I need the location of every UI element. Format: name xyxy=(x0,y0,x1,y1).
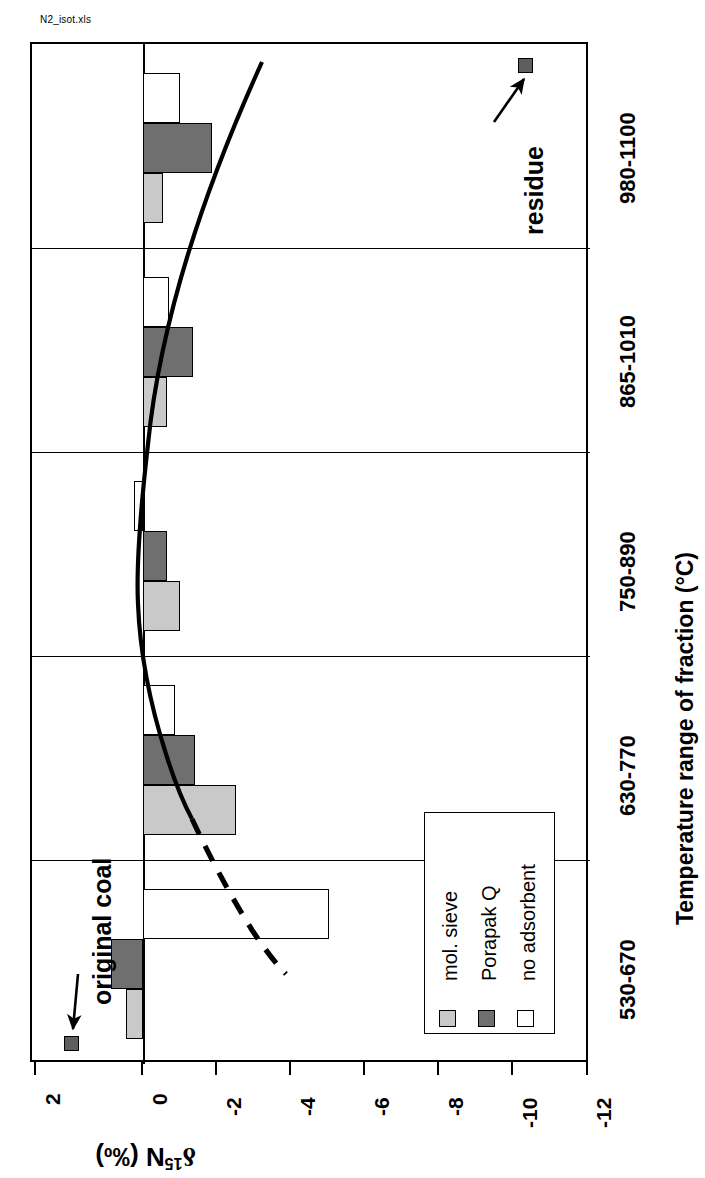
legend-label-no-adsorbent: no adsorbent xyxy=(517,864,540,981)
value-tick-label--12: -12 xyxy=(592,1098,616,1128)
value-tick-label-2: 2 xyxy=(41,1093,65,1105)
annotation-residue: residue xyxy=(520,146,549,235)
axis-tick xyxy=(586,1062,588,1075)
chart-figure: N2_isot.xls xyxy=(0,0,705,1178)
legend-swatch-porapak-q xyxy=(478,1010,495,1027)
residue-arrow xyxy=(494,79,524,122)
axis-tick xyxy=(34,1062,36,1075)
value-tick-label--8: -8 xyxy=(444,1097,468,1116)
annotation-original-coal: original coal xyxy=(88,858,117,1005)
original-coal-arrow xyxy=(73,974,78,1029)
value-tick-label--2: -2 xyxy=(222,1097,246,1116)
file-label: N2_isot.xls xyxy=(40,14,91,25)
value-axis-title: δ15N (‰) xyxy=(95,1141,196,1172)
value-tick-label--10: -10 xyxy=(518,1098,542,1128)
legend-label-mol-sieve: mol. sieve xyxy=(439,891,462,981)
category-label-750-890: 750-890 xyxy=(615,531,641,612)
axis-tick xyxy=(141,1062,143,1075)
axis-tick xyxy=(437,1062,439,1075)
value-tick-label-0: 0 xyxy=(148,1093,172,1105)
category-label-630-770: 630-770 xyxy=(615,735,641,816)
legend-swatch-no-adsorbent xyxy=(517,1010,534,1027)
value-tick-label--4: -4 xyxy=(296,1097,320,1116)
category-axis-title: Temperature range of fraction (°C) xyxy=(672,552,699,925)
axis-tick xyxy=(363,1062,365,1075)
category-label-530-670: 530-670 xyxy=(615,939,641,1020)
legend: mol. sieve Porapak Q no adsorbent xyxy=(424,812,555,1034)
value-tick-label--6: -6 xyxy=(370,1097,394,1116)
legend-label-porapak-q: Porapak Q xyxy=(478,885,501,981)
category-label-980-1100: 980-1100 xyxy=(615,112,641,204)
axis-tick xyxy=(215,1062,217,1075)
axis-tick xyxy=(511,1062,513,1075)
category-label-865-1010: 865-1010 xyxy=(615,315,641,408)
legend-swatch-mol-sieve xyxy=(439,1010,456,1027)
axis-tick xyxy=(289,1062,291,1075)
